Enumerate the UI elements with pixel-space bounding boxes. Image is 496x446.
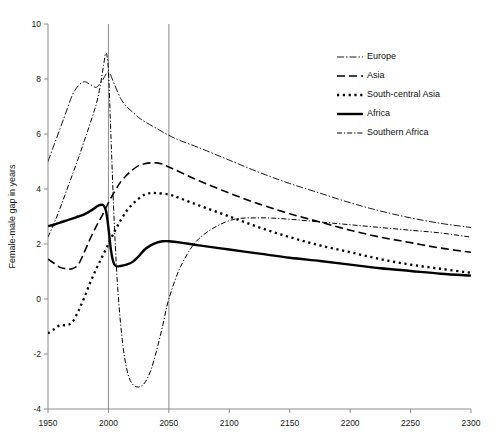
legend-label-asia: Asia (367, 70, 385, 80)
x-tick-label: 2100 (220, 418, 239, 428)
x-tick-label: 2050 (159, 418, 178, 428)
legend-label-africa: Africa (367, 108, 390, 118)
legend-item-southern-africa[interactable]: Southern Africa (337, 127, 429, 137)
y-tick-label: 8 (36, 74, 41, 84)
x-tick-label: 2000 (99, 418, 118, 428)
x-tick-label: 2200 (341, 418, 360, 428)
y-tick-label: -2 (33, 349, 41, 359)
legend-item-africa[interactable]: Africa (337, 108, 390, 118)
series-layer (48, 53, 471, 387)
legend-label-southern-africa: Southern Africa (367, 127, 429, 137)
legend-item-asia[interactable]: Asia (337, 70, 385, 80)
y-axis-title: Female-male gap in years (7, 164, 17, 269)
reference-lines-layer (108, 24, 168, 409)
x-tick-label: 2300 (462, 418, 481, 428)
chart-legend: EuropeAsiaSouth-central AsiaAfricaSouthe… (337, 51, 440, 137)
y-tick-label: 2 (36, 239, 41, 249)
y-tick-label: -4 (33, 404, 41, 414)
y-tick-label: 10 (32, 19, 42, 29)
y-tick-labels: -4-20246810 (32, 19, 42, 414)
x-tick-label: 2250 (401, 418, 420, 428)
series-line-south-central-asia (48, 193, 471, 333)
line-chart: -4-20246810 1950200020502100215022002250… (0, 0, 496, 446)
legend-item-south-central-asia[interactable]: South-central Asia (337, 89, 440, 99)
y-tick-label: 6 (36, 129, 41, 139)
series-line-africa (48, 205, 471, 276)
chart-container: -4-20246810 1950200020502100215022002250… (0, 0, 496, 446)
legend-label-europe: Europe (367, 51, 396, 61)
legend-item-europe[interactable]: Europe (337, 51, 396, 61)
y-tick-label: 4 (36, 184, 41, 194)
x-tick-label: 2150 (280, 418, 299, 428)
series-line-southern-africa (48, 53, 471, 387)
x-tick-label: 1950 (39, 418, 58, 428)
x-tick-labels: 19502000205021002150220022502300 (39, 418, 481, 428)
y-axis-title-text: Female-male gap in years (7, 164, 17, 269)
y-tick-label: 0 (36, 294, 41, 304)
legend-label-south-central-asia: South-central Asia (367, 89, 440, 99)
